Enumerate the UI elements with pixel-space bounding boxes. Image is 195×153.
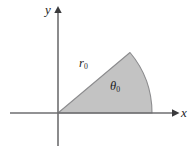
shaded-sector-region: [58, 53, 152, 114]
y-axis-arrowhead-icon: [54, 6, 61, 13]
figure-container: y x r0 θ0: [0, 0, 195, 153]
x-axis-label: x: [181, 106, 187, 119]
x-axis-arrowhead-icon: [172, 109, 180, 116]
radius-label-subscript: 0: [84, 62, 88, 71]
sector-diagram-svg: [0, 0, 195, 153]
angle-label-theta0: θ0: [110, 80, 120, 94]
radius-label-r0: r0: [79, 57, 88, 71]
angle-label-subscript: 0: [116, 85, 120, 94]
y-axis-label: y: [45, 3, 51, 16]
